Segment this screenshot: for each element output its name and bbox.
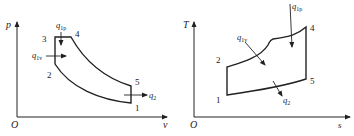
pv-diagram: p O v 3 4 2 5 1 q1p q1v q2 bbox=[5, 19, 168, 130]
ts-x-axis-label: s bbox=[338, 120, 342, 130]
pv-point-2: 2 bbox=[47, 70, 52, 80]
ts-point-5: 5 bbox=[310, 76, 315, 86]
ts-origin-label: O bbox=[190, 119, 197, 130]
pv-cycle-path bbox=[55, 37, 131, 103]
pv-q1v-label: q1v bbox=[32, 50, 42, 61]
pv-point-1: 1 bbox=[135, 103, 140, 113]
ts-q2-label: q2 bbox=[283, 95, 290, 106]
ts-point-4: 4 bbox=[310, 23, 315, 33]
pv-point-4: 4 bbox=[75, 29, 80, 39]
pv-q1p-label: q1p bbox=[56, 20, 66, 31]
ts-y-axis-label: T bbox=[183, 19, 190, 30]
ts-q1p-label: q1p bbox=[292, 1, 302, 12]
pv-y-axis-label: p bbox=[5, 19, 11, 30]
ts-point-1: 1 bbox=[216, 95, 221, 105]
diagram-canvas: p O v 3 4 2 5 1 q1p q1v q2 T O s 2 1 4 5 bbox=[0, 0, 354, 136]
pv-origin-label: O bbox=[11, 119, 18, 130]
ts-q1v-arrow bbox=[245, 42, 265, 65]
pv-point-3: 3 bbox=[42, 34, 47, 44]
ts-point-2: 2 bbox=[216, 55, 221, 65]
pv-x-axis-label: v bbox=[163, 119, 168, 130]
ts-q1v-label: q1v bbox=[237, 32, 247, 43]
ts-diagram: T O s 2 1 4 5 q1p q1v q2 bbox=[183, 1, 350, 130]
pv-point-5: 5 bbox=[135, 77, 140, 87]
pv-q2-label: q2 bbox=[149, 90, 156, 101]
ts-q2-arrow bbox=[273, 81, 282, 96]
